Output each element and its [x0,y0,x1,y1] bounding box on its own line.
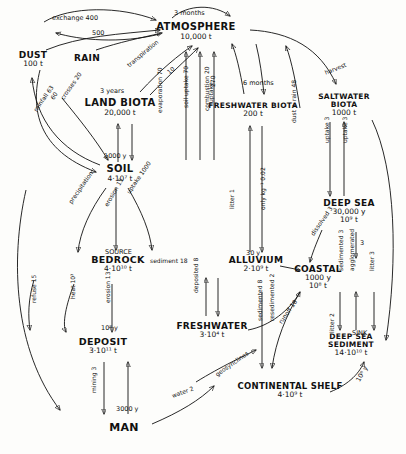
node-deposit-value: 3·10¹¹ t [79,347,127,355]
node-alluvium: ALLUVIUM 2·10⁹ t [229,256,283,273]
edge-label-108-y: 10⁸ y [101,325,118,332]
node-soil-name: SOIL [107,164,134,175]
node-deposit: DEPOSIT 3·10¹¹ t [79,337,127,355]
node-land-biota: LAND BIOTA 20,000 t [85,98,156,116]
node-freshwater-value: 3·10⁴ t [176,332,247,340]
edge-label-sedimented-8: sedimented 8 [257,280,263,321]
diagram-canvas: ATMOSPHERE 10,000 t DUST 100 t RAIN LAND… [0,0,406,454]
edge-label-3000-y: 3000 y [116,406,138,413]
edge-label-sedimented-3: sedimented 3 [338,230,344,271]
edge-label-exchange-400: exchange 400 [52,15,98,22]
node-deep-sea-sediment: DEEP SEA SEDIMENT 14·10¹⁰ t [324,333,379,357]
edge-label-uptake: uptake [208,82,214,103]
edge-label-evaporation-70: evaporation 70 [157,67,163,113]
edge-label-erosion-13: erosion 13 [105,271,111,303]
edge-label-litter-3: litter 3 [369,251,375,271]
node-atmosphere-name: ATMOSPHERE [156,22,236,33]
node-man: MAN [109,422,139,434]
edge-label-sink: SINK [352,330,367,337]
node-freshwater-biota-value: 200 t [208,110,298,118]
edge-label-sediment-18: sediment 18 [150,258,188,264]
node-land-biota-value: 20,000 t [85,108,156,116]
node-freshwater: FRESHWATER 3·10⁴ t [176,322,247,339]
edge-label-agglomerated: agglomerated [349,229,355,271]
node-coastal: COASTAL 1000 y 10⁸ t [294,265,342,290]
node-rain: RAIN [74,54,100,63]
node-freshwater-biota: FRESHWATER BIOTA 200 t [208,102,298,118]
edge-label-uptake-3a: uptake 3 [324,117,330,143]
edge-label-only-kg-002: only kg⁻¹ 0.02 [260,167,266,210]
node-continental-shelf-value: 4·10⁹ t [237,391,342,399]
edge-label-1000-y: 1000 y [104,153,126,160]
node-saltwater-biota-name: SALTWATER BIOTA [313,93,375,109]
edge-label-heat-103: heat 10³ [70,274,76,299]
node-dust-value: 100 t [19,61,48,69]
node-dust: DUST 100 t [19,51,48,68]
node-land-biota-name: LAND BIOTA [85,98,156,109]
edge-label-dust-rain-48: dust + rain 48 [291,80,297,123]
node-atmosphere-value: 10,000 t [156,32,236,40]
edge-label-litter-2: litter 2 [329,313,335,333]
edge-label-mining-3: mining 3 [91,367,97,393]
edge-label-three-months: 3 months [174,10,205,17]
node-bedrock-value: 4·10¹⁰ t [91,265,144,273]
node-continental-shelf: CONTINENTAL SHELF 4·10⁹ t [237,382,342,399]
edge-label-litter-1: litter 1 [229,189,235,209]
node-saltwater-biota: SALTWATER BIOTA 1000 t [313,93,375,117]
node-atmosphere: ATMOSPHERE 10,000 t [156,22,236,40]
edge-label-deposited-8: deposited 8 [193,258,199,293]
edge-label-30-y: 30 y [246,250,260,257]
edge-label-three-years: 3 years [100,88,124,95]
edge-label-sea-3: 3 [360,240,364,247]
node-bedrock: BEDROCK 4·10¹⁰ t [91,255,144,273]
node-deep-sea-sediment-value: 14·10¹⁰ t [324,349,379,357]
node-alluvium-value: 2·10⁹ t [229,266,283,274]
edge-label-uptake-3b: uptake 3 [342,117,348,143]
edge-label-source: SOURCE [105,249,132,256]
edge-label-6-months: 6 months [243,80,274,87]
node-saltwater-biota-value: 1000 t [313,109,375,117]
node-deep-sea-sediment-name: DEEP SEA SEDIMENT [324,333,379,349]
edge-label-soil-uptake-70: soil uptake 70 [183,66,189,108]
node-coastal-value: 1000 y 10⁸ t [294,275,342,291]
edge-label-resedimented-2: resedimented 2 [269,274,275,321]
node-rain-name: RAIN [74,54,100,63]
edge-label-refuse-15: refuse 15 [31,275,37,303]
node-man-name: MAN [109,422,139,434]
edge-label-exchange-500: 500 [92,30,104,37]
